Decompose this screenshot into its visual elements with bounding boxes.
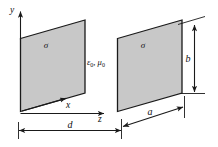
z-axis-label: z xyxy=(97,114,102,124)
figure-container: y σ x z ε0, μ0 σ xyxy=(0,0,218,147)
dimension-a-label: a xyxy=(148,106,153,117)
parallel-plate-diagram: y σ x z ε0, μ0 σ xyxy=(0,0,218,147)
y-axis-label: y xyxy=(9,5,15,15)
right-plate-charge-label: σ xyxy=(141,40,146,50)
dimension-b-label: b xyxy=(186,53,191,64)
permeability-subscript: 0 xyxy=(102,62,105,68)
left-plate-charge-label: σ xyxy=(44,40,49,50)
x-axis-label: x xyxy=(65,100,71,110)
